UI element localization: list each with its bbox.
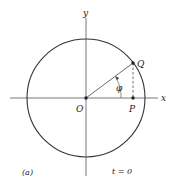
origin-label: O — [76, 104, 84, 114]
x-axis-label: x — [161, 93, 166, 103]
circle-diagram: y x O Q P φ (a) t = 0 — [0, 0, 179, 192]
point-q-dot — [131, 61, 134, 64]
y-axis-label: y — [82, 8, 89, 18]
angle-label: φ — [116, 83, 123, 93]
origin-dot — [84, 96, 87, 99]
point-p-label: P — [128, 104, 136, 114]
panel-label: (a) — [22, 168, 33, 177]
point-p-dot — [131, 96, 134, 99]
point-q-label: Q — [137, 59, 145, 69]
radius-oq — [86, 63, 133, 98]
time-label: t = 0 — [112, 167, 132, 176]
angle-arrow-icon — [115, 76, 119, 80]
